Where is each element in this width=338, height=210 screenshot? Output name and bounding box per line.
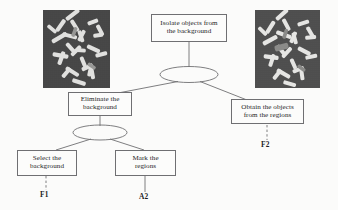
node-eliminate-background[interactable]: Eliminate the background xyxy=(68,92,132,116)
node-mark-regions-text: Mark the regions xyxy=(132,155,158,171)
terminal-label-f2: F2 xyxy=(261,140,270,149)
node-obtain-objects[interactable]: Obtain the objects from the regions xyxy=(231,99,304,124)
terminal-label-f1: F1 xyxy=(40,190,49,199)
link-and-top-to-obtain xyxy=(200,82,247,101)
node-select-background[interactable]: Select the background xyxy=(17,150,77,176)
node-eliminate-background-text: Eliminate the background xyxy=(81,96,120,112)
ellipse-and-junction-top xyxy=(160,67,218,83)
node-isolate-objects-text: Isolate objects from the background xyxy=(160,20,217,36)
segmented-rod-image xyxy=(255,10,320,88)
node-obtain-objects-text: Obtain the objects from the regions xyxy=(241,104,294,120)
node-select-background-text: Select the background xyxy=(30,155,64,171)
diagram-canvas: Isolate objects from the background Elim… xyxy=(0,0,338,210)
terminal-label-a2: A2 xyxy=(139,192,148,201)
node-mark-regions[interactable]: Mark the regions xyxy=(115,150,176,176)
original-rod-image xyxy=(43,10,110,88)
ellipse-and-junction-lower xyxy=(73,125,127,140)
link-and-lower-to-select xyxy=(56,139,91,150)
node-isolate-objects[interactable]: Isolate objects from the background xyxy=(151,14,227,42)
link-and-lower-to-mark xyxy=(110,139,144,150)
